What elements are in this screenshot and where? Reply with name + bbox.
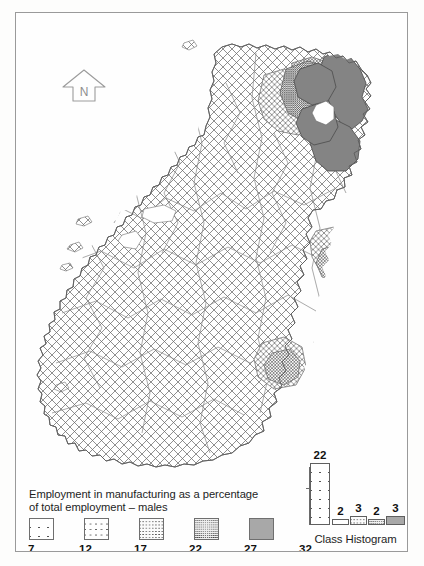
class-histogram: 22 2 3 2 3 Class Histogram xyxy=(304,453,407,545)
histogram-value-class-4: 2 xyxy=(368,505,385,517)
legend-swatch-class-2 xyxy=(84,518,109,540)
histogram-value-class-1: 22 xyxy=(309,449,331,461)
histogram-bar-class-1 xyxy=(310,463,330,525)
legend-title-line1: Employment in manufacturing as a percent… xyxy=(29,488,258,500)
legend-title: Employment in manufacturing as a percent… xyxy=(29,488,297,515)
histogram-bar-class-4 xyxy=(368,519,385,525)
north-arrow-label-text: N xyxy=(80,85,89,99)
legend-swatch-class-4 xyxy=(194,518,219,540)
legend-swatch-class-5 xyxy=(249,518,274,540)
legend-break-3: 22 xyxy=(189,543,202,552)
north-arrow: N xyxy=(58,65,110,109)
histogram-label: Class Histogram xyxy=(304,533,407,545)
legend-swatch-class-1 xyxy=(29,518,54,540)
histogram-value-class-3: 3 xyxy=(350,502,367,514)
legend-swatch-class-3 xyxy=(139,518,164,540)
island-west-1 xyxy=(76,216,92,226)
region-east-coastal xyxy=(310,227,348,271)
legend-break-4: 27 xyxy=(244,543,257,552)
legend-break-0: 7 xyxy=(28,543,34,552)
island-west-2 xyxy=(67,242,83,252)
histogram-bar-class-3 xyxy=(350,516,367,525)
island-west-3 xyxy=(60,263,73,271)
region-northern-ireland-tyrone xyxy=(294,63,336,105)
histogram-bars: 22 2 3 2 3 xyxy=(310,463,406,525)
legend-break-2: 17 xyxy=(134,543,147,552)
histogram-value-class-5: 3 xyxy=(386,502,405,514)
legend-tick-row: 7 12 17 22 27 32 xyxy=(29,543,297,552)
legend-break-1: 12 xyxy=(79,543,92,552)
legend-title-line2: of total employment – males xyxy=(29,501,168,513)
histogram-value-class-2: 2 xyxy=(332,505,349,517)
map-page: N Employment in manufacturing as a perce… xyxy=(0,0,424,566)
map-legend: Employment in manufacturing as a percent… xyxy=(29,488,297,552)
legend-swatch-row xyxy=(29,518,297,542)
histogram-bar-class-5 xyxy=(386,516,405,525)
map-frame: N Employment in manufacturing as a perce… xyxy=(15,12,408,552)
island-north xyxy=(182,40,197,50)
histogram-bar-class-2 xyxy=(332,519,349,525)
region-east-midland xyxy=(316,245,350,281)
